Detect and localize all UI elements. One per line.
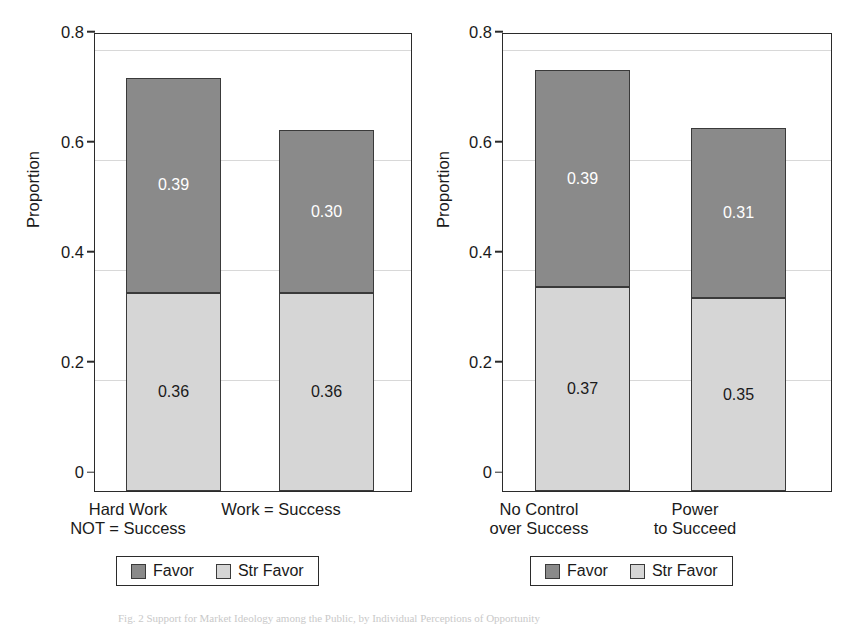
y-tick-left-4: 0 [25,463,95,482]
bar-value-label: 0.36 [311,384,342,400]
y-tick-mark-icon [87,471,95,473]
x-tick-label-line2: over Success [454,519,624,538]
y-tick-left-2: 0.4 [25,242,95,261]
legend-item-str-favor[interactable]: Str Favor [216,562,304,580]
figure-container: Proportion 0.8 0.6 0.4 [0,0,861,629]
legend-item-favor[interactable]: Favor [131,562,194,580]
x-tick-label-line1: Power [610,500,780,519]
chart-panels: Proportion 0.8 0.6 0.4 [0,0,861,598]
y-tick-right-1: 0.6 [433,132,503,151]
y-tick-right-3: 0.2 [433,352,503,371]
legend-swatch-str-favor-icon [216,564,231,579]
y-tick-right-1-text: 0.6 [469,132,492,150]
y-tick-mark-icon [87,361,95,363]
y-tick-left-3: 0.2 [25,352,95,371]
y-tick-left-0: 0.8 [25,22,95,41]
bar-segment-favor[interactable]: 0.31 [691,128,786,299]
legend-label-favor: Favor [567,562,608,580]
y-tick-left-2-text: 0.4 [61,242,84,260]
bar-value-label: 0.37 [567,381,598,397]
x-tick-label-line2: NOT = Success [43,519,213,538]
x-tick-label-line1: Hard Work [43,500,213,519]
y-tick-right-0: 0.8 [433,22,503,41]
y-tick-right-3-text: 0.2 [469,352,492,370]
legend-label-str-favor: Str Favor [238,562,304,580]
gridline-0-8-right [503,50,831,51]
x-tick-label-line2: to Succeed [610,519,780,538]
bar-value-label: 0.39 [567,171,598,187]
legend-swatch-favor-icon [545,564,560,579]
legend-left: Favor Str Favor [116,556,319,586]
y-tick-left-4-text: 0 [75,463,84,481]
y-tick-left-1: 0.6 [25,132,95,151]
bar-left-1[interactable]: 0.36 0.39 [126,84,221,491]
bar-value-label: 0.36 [158,384,189,400]
x-tick-label-line1: Work = Success [196,500,366,519]
bar-right-1[interactable]: 0.37 0.39 [535,70,630,491]
legend-swatch-favor-icon [131,564,146,579]
y-tick-right-0-text: 0.8 [469,22,492,40]
legend-item-str-favor[interactable]: Str Favor [630,562,718,580]
y-tick-left-3-text: 0.2 [61,352,84,370]
y-tick-right-2-text: 0.4 [469,242,492,260]
x-tick-label-left-1: Hard Work NOT = Success [43,500,213,538]
bar-segment-favor[interactable]: 0.39 [126,78,221,293]
y-tick-right-2: 0.4 [433,242,503,261]
bar-segment-str-favor[interactable]: 0.35 [691,298,786,491]
y-tick-mark-icon [87,141,95,143]
y-tick-right-4: 0 [433,463,503,482]
y-tick-mark-icon [495,471,503,473]
plot-area-right: 0.8 0.6 0.4 0.2 0 [502,33,832,492]
legend-label-favor: Favor [153,562,194,580]
y-tick-mark-icon [87,31,95,33]
y-tick-mark-icon [495,251,503,253]
chart-panel-left: Proportion 0.8 0.6 0.4 [0,0,430,598]
bar-right-2[interactable]: 0.35 0.31 [691,128,786,491]
bar-left-2[interactable]: 0.36 0.30 [279,130,374,491]
bar-segment-favor[interactable]: 0.39 [535,70,630,287]
bar-value-label: 0.39 [158,177,189,193]
chart-panel-right: Proportion 0.8 0.6 0.4 [430,0,861,598]
y-tick-mark-icon [87,251,95,253]
y-tick-left-1-text: 0.6 [61,132,84,150]
bar-value-label: 0.35 [723,387,754,403]
legend-item-favor[interactable]: Favor [545,562,608,580]
legend-label-str-favor: Str Favor [652,562,718,580]
x-tick-label-line1: No Control [454,500,624,519]
x-tick-label-left-2: Work = Success [196,500,366,519]
y-tick-left-0-text: 0.8 [61,22,84,40]
gridline-0-8-left [95,50,411,51]
bar-segment-str-favor[interactable]: 0.36 [126,293,221,491]
plot-area-left: 0.8 0.6 0.4 0.2 0 [94,33,412,492]
bar-value-label: 0.31 [723,205,754,221]
bar-segment-str-favor[interactable]: 0.37 [535,287,630,491]
x-tick-label-right-2: Power to Succeed [610,500,780,538]
bar-value-label: 0.30 [311,204,342,220]
figure-caption: Fig. 2 Support for Market Ideology among… [118,612,818,626]
y-tick-right-4-text: 0 [483,463,492,481]
bar-segment-str-favor[interactable]: 0.36 [279,293,374,491]
y-tick-mark-icon [495,31,503,33]
bar-segment-favor[interactable]: 0.30 [279,130,374,292]
y-tick-mark-icon [495,361,503,363]
legend-swatch-str-favor-icon [630,564,645,579]
legend-right: Favor Str Favor [530,556,733,586]
y-tick-mark-icon [495,141,503,143]
x-tick-label-right-1: No Control over Success [454,500,624,538]
